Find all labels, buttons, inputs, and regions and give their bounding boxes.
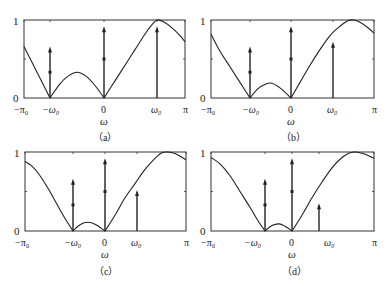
x-tick-zero: 0 [101,104,106,115]
x-axis-label: ω [100,115,108,127]
x-tick-omega0: ω₀ [327,104,338,115]
panel-caption: （d） [282,266,307,277]
x-tick-neg-pi: −π₀ [14,104,29,115]
panel-d [211,152,374,231]
panel-caption: （b） [281,132,306,143]
arrow-head-icon [248,47,252,53]
y-tick-0: 0 [13,92,19,104]
y-tick-0: 0 [14,225,20,237]
arrow-head-icon [290,158,294,164]
panel-caption: （a） [93,132,117,143]
y-tick-1: 1 [200,15,206,27]
arrow-head-icon [102,26,106,32]
x-tick-neg-pi: −π₀ [201,237,216,248]
arrow-head-icon [155,26,159,32]
arrow-head-icon [331,42,335,48]
impulse-marker [291,190,294,193]
x-tick-pi: π [372,237,377,248]
y-tick-1: 1 [14,147,20,159]
x-tick-zero: 0 [289,237,294,248]
panel-b [211,20,374,98]
impulse-marker [103,58,106,61]
x-tick-pi: π [372,104,377,115]
x-axis-label: ω [287,115,295,127]
impulse-marker [104,190,107,193]
x-axis-label: ω [288,248,296,260]
y-tick-0: 0 [200,92,206,104]
panel-a [24,20,185,98]
impulse-marker [290,58,293,61]
x-tick-pi: π [183,104,188,115]
impulse-marker [249,71,252,74]
arrow-head-icon [263,179,267,185]
y-tick-1: 1 [13,15,19,27]
impulse-marker [264,203,267,206]
panel-caption: （c） [94,266,118,277]
y-tick-0: 0 [200,225,206,237]
panel-c [25,152,186,231]
impulse-marker [49,71,52,74]
arrow-head-icon [103,158,107,164]
y-tick-1: 1 [200,147,206,159]
x-tick-neg-omega0: −ω₀ [42,104,60,115]
x-tick-omega0: ω₀ [151,104,162,115]
x-tick-zero: 0 [288,104,293,115]
x-tick-omega0: ω₀ [324,237,335,248]
arrow-head-icon [317,203,321,209]
arrow-head-icon [289,26,293,32]
x-tick-zero: 0 [102,237,107,248]
x-tick-neg-pi: −π₀ [15,237,30,248]
x-tick-pi: π [184,237,189,248]
figure: 1 0 −π₀ −ω₀ 0 ω₀ π ω （a） 1 0 −π₀ −ω₀ 0 ω… [0,0,390,288]
arrow-head-icon [71,179,75,185]
arrow-head-icon [48,47,52,53]
x-tick-neg-omega0: −ω₀ [244,237,262,248]
x-tick-neg-omega0: −ω₀ [242,104,260,115]
x-tick-neg-pi: −π₀ [201,104,216,115]
impulse-marker [72,203,75,206]
x-tick-omega0: ω₀ [131,237,142,248]
x-tick-neg-omega0: −ω₀ [64,237,82,248]
x-axis-label: ω [101,248,109,260]
arrow-head-icon [135,190,139,196]
